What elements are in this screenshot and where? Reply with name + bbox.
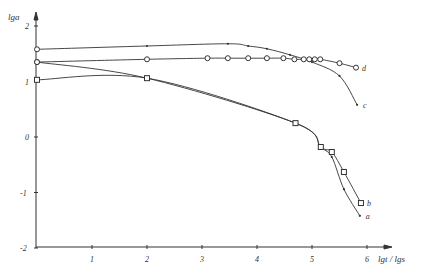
y-tick-label: 0	[25, 133, 29, 142]
x-tick-label: 6	[365, 255, 369, 264]
circle-marker	[292, 57, 297, 62]
circle-marker	[281, 56, 286, 61]
dot-marker	[359, 215, 361, 217]
y-tick-label: -2	[20, 244, 27, 253]
dot-marker	[331, 156, 333, 158]
square-marker	[318, 144, 323, 149]
square-marker	[358, 201, 363, 206]
x-axis-label: lgt / lgs	[378, 254, 406, 264]
series-label: d	[362, 64, 367, 73]
series-label: c	[363, 101, 367, 110]
circle-marker	[205, 56, 210, 61]
dot-marker	[247, 45, 249, 47]
circle-marker	[301, 57, 306, 62]
circle-marker	[318, 57, 323, 62]
circle-marker	[312, 57, 317, 62]
circle-marker	[337, 61, 342, 66]
x-tick-label: 1	[90, 255, 94, 264]
series-label: a	[366, 212, 370, 221]
square-marker	[145, 76, 150, 81]
x-tick-label: 3	[199, 255, 204, 264]
x-axis	[36, 245, 392, 249]
circle-marker	[246, 56, 251, 61]
circle-marker	[307, 57, 312, 62]
series-b: b	[35, 75, 371, 208]
chart: 123456210-1-2 lga lgt / lgs abcd	[0, 0, 423, 271]
circle-marker	[145, 57, 150, 62]
circle-marker	[354, 65, 359, 70]
dot-marker	[227, 43, 229, 45]
square-marker	[341, 169, 346, 174]
series-group: abcd	[35, 43, 371, 221]
square-marker	[329, 149, 334, 154]
circle-marker	[225, 56, 230, 61]
square-marker	[35, 77, 40, 82]
x-tick-label: 5	[310, 255, 314, 264]
series-label: b	[367, 199, 371, 208]
circle-marker	[264, 56, 269, 61]
x-tick-label: 2	[145, 255, 149, 264]
y-tick-label: 1	[25, 78, 29, 87]
dot-marker	[343, 188, 345, 190]
dot-marker	[356, 104, 358, 106]
dot-marker	[338, 75, 340, 77]
y-tick-label: 2	[25, 22, 29, 31]
series-a: a	[35, 60, 370, 221]
x-tick-label: 4	[255, 255, 259, 264]
dot-marker	[266, 48, 268, 50]
y-axis-label: lga	[8, 12, 20, 22]
square-marker	[293, 121, 298, 126]
dot-marker	[146, 45, 148, 47]
y-tick-label: -1	[20, 189, 27, 198]
dot-marker	[289, 54, 291, 56]
